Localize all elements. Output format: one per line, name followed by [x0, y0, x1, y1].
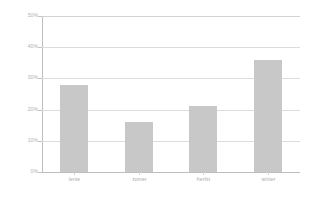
bar	[125, 122, 153, 172]
x-tick-mark	[139, 172, 140, 175]
y-tick-label: 20%	[6, 107, 38, 112]
y-tick-mark	[38, 16, 42, 17]
x-tick-mark	[74, 172, 75, 175]
y-tick-mark	[38, 47, 42, 48]
bar	[189, 106, 217, 172]
bar	[254, 60, 282, 172]
y-tick-label: 30%	[6, 75, 38, 80]
x-tick-label: lente	[42, 177, 107, 182]
x-tick-label: winter	[236, 177, 301, 182]
y-tick-mark	[38, 110, 42, 111]
y-tick-label: 40%	[6, 44, 38, 49]
gridline	[42, 47, 300, 48]
x-tick-mark	[203, 172, 204, 175]
y-tick-label: 0%	[6, 169, 38, 174]
x-axis-line	[42, 172, 300, 173]
y-tick-mark	[38, 78, 42, 79]
y-tick-label: 50%	[6, 13, 38, 18]
y-tick-mark	[38, 172, 42, 173]
x-tick-mark	[268, 172, 269, 175]
y-tick-mark	[38, 141, 42, 142]
bar	[60, 85, 88, 172]
x-tick-label: zomer	[107, 177, 172, 182]
gridline	[42, 16, 300, 17]
y-axis-line	[42, 16, 43, 173]
x-tick-label: herfst	[171, 177, 236, 182]
y-tick-label: 10%	[6, 138, 38, 143]
bar-chart: 0%10%20%30%40%50% lentezomerherfstwinter	[0, 0, 310, 197]
